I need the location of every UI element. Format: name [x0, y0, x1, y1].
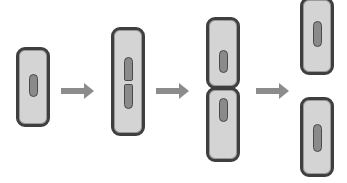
stage-4-dna-bottom: [313, 124, 322, 152]
stage-4-dna-top: [313, 21, 322, 47]
stage-1-dna: [29, 74, 38, 97]
arrow-3-icon: [256, 88, 280, 94]
stage-3-dna-bottom: [219, 98, 228, 122]
stage-2-dna-bottom: [124, 84, 133, 109]
stage-3-dna-top: [219, 50, 228, 73]
stage-2-dna-top: [124, 57, 133, 81]
stage-2-cell: [111, 27, 145, 136]
arrow-2-icon: [156, 88, 180, 94]
arrow-1-icon: [61, 88, 85, 94]
